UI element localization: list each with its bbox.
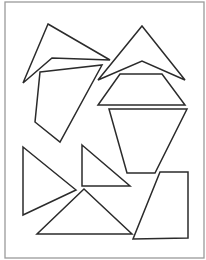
page-frame: [5, 2, 204, 258]
tangram-diagram: [0, 0, 206, 260]
